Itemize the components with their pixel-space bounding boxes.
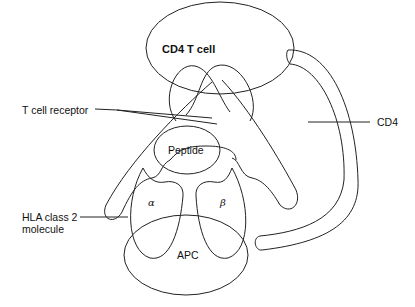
cd4-t-cell-label: CD4 T cell: [162, 43, 215, 55]
tcr-leader-line: [95, 109, 217, 124]
t-cell-receptor-label: T cell receptor: [22, 104, 88, 116]
cd4-label: CD4: [377, 116, 398, 128]
cd4-shape: [255, 50, 358, 250]
tcr-loop-shape: [169, 65, 253, 121]
tcr-right-arm-shape: [222, 80, 298, 209]
hla-label-line1: HLA class 2: [22, 211, 77, 223]
hla-label-line2: molecule: [22, 223, 64, 235]
peptide-label: Peptide: [168, 144, 204, 156]
apc-label: APC: [177, 249, 199, 261]
hla-beta-shape: [196, 168, 246, 258]
beta-label: β: [220, 197, 226, 209]
hla-alpha-shape: [131, 168, 183, 258]
alpha-label: α: [148, 197, 155, 209]
